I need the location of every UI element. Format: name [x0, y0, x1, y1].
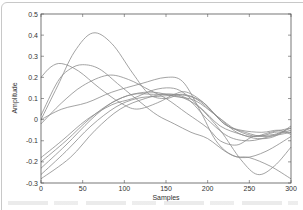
figure-caption-blurred	[8, 201, 298, 205]
y-tick-label: 0.4	[28, 32, 38, 39]
x-tick-label: 50	[79, 185, 87, 192]
data-line-trace-3	[41, 65, 291, 158]
y-tick-label: -0.2	[26, 158, 38, 165]
x-tick-label: 0	[39, 185, 43, 192]
data-line-trace-1	[41, 33, 291, 137]
y-tick-label: 0.3	[28, 53, 38, 60]
data-line-trace-8	[41, 92, 291, 168]
plot-lines	[41, 33, 291, 179]
y-tick-label: -0.3	[26, 180, 38, 187]
y-axis-label: Amplitude	[11, 82, 19, 113]
y-tick-label: 0.5	[28, 11, 38, 18]
x-tick-label: 250	[243, 185, 255, 192]
data-line-trace-5	[41, 77, 291, 179]
line-chart: 0501001502002503000.50.40.30.20.10-0.1-0…	[0, 0, 303, 210]
data-line-trace-6	[41, 88, 291, 175]
data-line-trace-7	[41, 94, 291, 162]
y-tick-label: 0	[34, 116, 38, 123]
x-tick-label: 150	[160, 185, 172, 192]
y-tick-label: 0.1	[28, 95, 38, 102]
x-tick-label: 300	[285, 185, 297, 192]
y-tick-label: -0.1	[26, 137, 38, 144]
x-tick-label: 200	[202, 185, 214, 192]
x-tick-label: 100	[118, 185, 130, 192]
y-tick-label: 0.2	[28, 74, 38, 81]
